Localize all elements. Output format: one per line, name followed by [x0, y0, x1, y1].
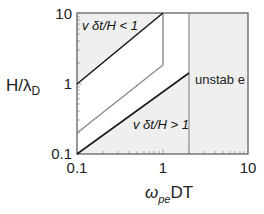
region-upper-label: v δt/H < 1: [82, 18, 138, 33]
region-lower-label: v δt/H > 1: [133, 117, 189, 132]
y-tick-1: 1: [64, 75, 72, 92]
x-tick-1: 1: [159, 159, 167, 176]
y-axis-label: H/λD: [6, 76, 41, 98]
x-tick-10: 10: [240, 159, 257, 176]
region-unstable-label: unstab e: [195, 72, 245, 87]
y-tick-10: 10: [55, 5, 72, 22]
x-tick-0.1: 0.1: [67, 159, 88, 176]
stability-chart: v δt/H < 1 v δt/H > 1 unstab e 10 1 0.1 …: [0, 0, 264, 214]
x-axis-label: ωpeDT: [145, 183, 193, 205]
